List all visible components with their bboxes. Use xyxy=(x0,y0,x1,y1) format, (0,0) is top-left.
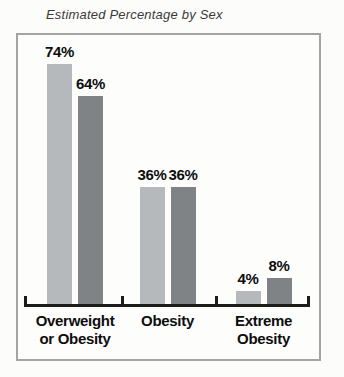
bar-value-label: 36% xyxy=(153,166,213,183)
x-axis-tick xyxy=(215,296,218,307)
x-axis-tick xyxy=(24,296,27,307)
x-axis-tick xyxy=(307,296,310,307)
bar-value-label: 8% xyxy=(249,257,309,274)
chart-container: Estimated Percentage by Sex 74%64%Overwe… xyxy=(0,0,344,377)
bar-series-dark-gray xyxy=(267,278,292,304)
bar-series-dark-gray xyxy=(78,96,103,304)
category-label: Extreme Obesity xyxy=(199,312,329,348)
x-axis-baseline xyxy=(24,304,310,307)
bar-series-light-gray xyxy=(47,64,72,305)
bar-series-light-gray xyxy=(236,291,261,304)
bar-value-label: 74% xyxy=(30,43,90,60)
bar-series-dark-gray xyxy=(171,187,196,304)
bar-series-light-gray xyxy=(140,187,165,304)
x-axis-tick xyxy=(121,296,124,307)
plot-area: 74%64%Overweight or Obesity36%36%Obesity… xyxy=(0,0,344,377)
bar-value-label: 64% xyxy=(61,75,121,92)
